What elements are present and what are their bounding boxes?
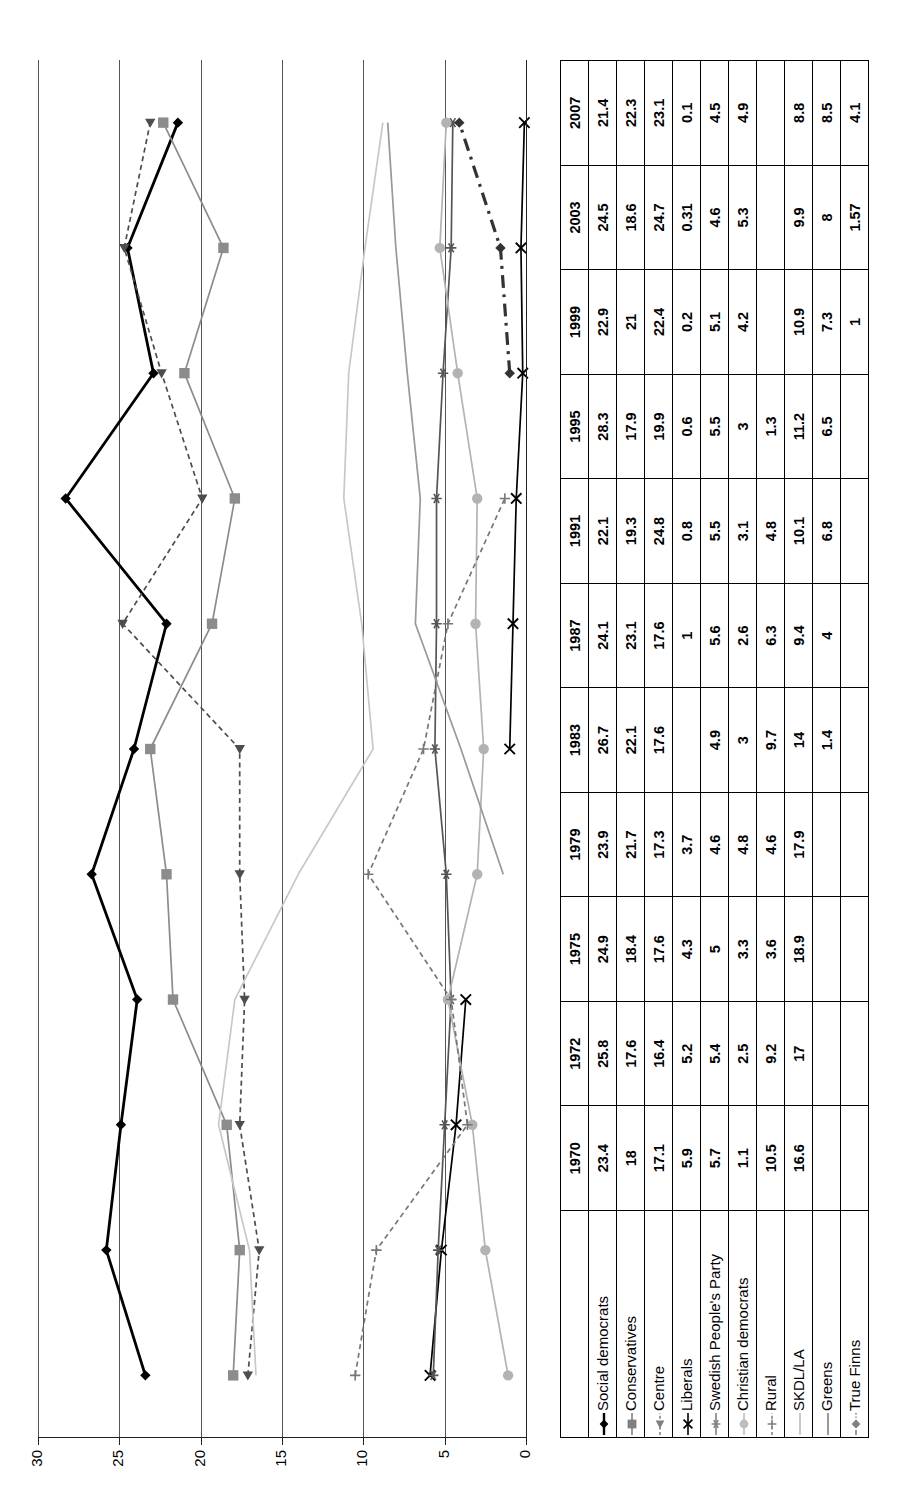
legend-item-label: Centre	[650, 1366, 667, 1411]
table-col-header-1987: 1987	[561, 583, 589, 688]
table-cell: 0.31	[673, 165, 701, 270]
table-cell: 6.5	[813, 374, 841, 479]
table-cell	[841, 1001, 869, 1106]
table-cell: 4.9	[701, 688, 729, 793]
table-cell: 2.5	[729, 1001, 757, 1106]
legend-item-label: SKDL/LA	[790, 1349, 807, 1411]
legend-item-social-democrats[interactable]: Social democrats	[589, 1211, 617, 1438]
axis-tick-label-30: 30	[28, 1450, 45, 1484]
table-cell: 16.6	[785, 1106, 813, 1211]
table-cell: 1.3	[757, 374, 785, 479]
table-cell: 1.57	[841, 165, 869, 270]
legend-item-true-finns[interactable]: True Finns	[841, 1211, 869, 1438]
table-row: Rural10.59.23.64.69.76.34.81.3	[757, 61, 785, 1438]
legend-marker-diamond-icon	[849, 1413, 861, 1435]
table-cell: 4.8	[729, 792, 757, 897]
table-cell: 24.9	[589, 897, 617, 1002]
table-cell: 23.4	[589, 1106, 617, 1211]
table-cell: 9.9	[785, 165, 813, 270]
table-cell	[841, 897, 869, 1002]
table-col-header-1983: 1983	[561, 688, 589, 793]
table-cell: 23.1	[617, 583, 645, 688]
table-cell: 19.9	[645, 374, 673, 479]
table-cell: 1	[673, 583, 701, 688]
table-cell: 21.7	[617, 792, 645, 897]
series-christian-democrats	[435, 117, 514, 1380]
table-cell	[813, 792, 841, 897]
table-cell: 28.3	[589, 374, 617, 479]
table-col-header-1979: 1979	[561, 792, 589, 897]
legend-item-label: Social democrats	[594, 1296, 611, 1411]
legend-item-label: Liberals	[678, 1358, 695, 1411]
plot-area: 051015202530	[38, 60, 526, 1438]
value-axis-line	[526, 60, 527, 1438]
table-cell: 17.6	[645, 688, 673, 793]
table-cell: 5.5	[701, 479, 729, 584]
series-true-finns	[454, 117, 515, 378]
tick-mark-0	[526, 1438, 527, 1445]
table-cell: 9.7	[757, 688, 785, 793]
table-cell: 23.9	[589, 792, 617, 897]
table-cell: 22.9	[589, 270, 617, 375]
table-cell: 22.1	[589, 479, 617, 584]
series-conservatives	[145, 117, 245, 1380]
table-cell: 1.4	[813, 688, 841, 793]
data-table: 1970197219751979198319871991199519992003…	[560, 60, 869, 1438]
table-cell: 0.8	[673, 479, 701, 584]
table-cell: 24.7	[645, 165, 673, 270]
table-body: Social democrats23.425.824.923.926.724.1…	[589, 61, 869, 1438]
table-cell: 9.4	[785, 583, 813, 688]
legend-marker-diamond-icon	[597, 1413, 609, 1435]
table-cell: 6.3	[757, 583, 785, 688]
table-cell: 3.7	[673, 792, 701, 897]
table-col-header-2003: 2003	[561, 165, 589, 270]
table-cell: 5.3	[729, 165, 757, 270]
table-col-header-1999: 1999	[561, 270, 589, 375]
table-header-row: 1970197219751979198319871991199519992003…	[561, 61, 589, 1438]
table-cell: 14	[785, 688, 813, 793]
table-col-header-1970: 1970	[561, 1106, 589, 1211]
data-table-zone: 1970197219751979198319871991199519992003…	[560, 60, 900, 1438]
legend-item-label: Greens	[818, 1362, 835, 1411]
table-row: SKDL/LA16.61718.917.9149.410.111.210.99.…	[785, 61, 813, 1438]
table-cell: 4.5	[701, 61, 729, 166]
table-cell	[841, 688, 869, 793]
table-cell: 4	[813, 583, 841, 688]
table-cell: 5.9	[673, 1106, 701, 1211]
table-row: True Finns11.574.1	[841, 61, 869, 1438]
table-cell	[673, 688, 701, 793]
legend-item-skdl-la[interactable]: SKDL/LA	[785, 1211, 813, 1438]
series-social-democrats	[60, 117, 183, 1380]
legend-item-centre[interactable]: Centre	[645, 1211, 673, 1438]
series-swedish-people-s-party	[428, 118, 458, 1380]
table-corner-cell	[561, 1211, 589, 1438]
table-cell: 3.1	[729, 479, 757, 584]
table-cell: 16.4	[645, 1001, 673, 1106]
series-lines	[38, 60, 526, 1438]
legend-item-rural[interactable]: Rural	[757, 1211, 785, 1438]
legend-item-label: True Finns	[846, 1340, 863, 1411]
table-cell: 24.5	[589, 165, 617, 270]
table-cell: 21	[617, 270, 645, 375]
legend-item-swedish-people-s-party[interactable]: Swedish People's Party	[701, 1211, 729, 1438]
axis-tick-label-0: 0	[516, 1450, 533, 1484]
table-cell: 11.2	[785, 374, 813, 479]
legend-item-greens[interactable]: Greens	[813, 1211, 841, 1438]
series-greens	[388, 123, 503, 875]
table-cell: 18	[617, 1106, 645, 1211]
legend-item-christian-democrats[interactable]: Christian democrats	[729, 1211, 757, 1438]
table-cell: 3	[729, 688, 757, 793]
table-cell: 5.4	[701, 1001, 729, 1106]
table-cell: 9.2	[757, 1001, 785, 1106]
axis-tick-label-5: 5	[435, 1450, 452, 1484]
table-cell: 4.6	[701, 165, 729, 270]
legend-item-liberals[interactable]: Liberals	[673, 1211, 701, 1438]
table-row: Liberals5.95.24.33.710.80.60.20.310.1	[673, 61, 701, 1438]
table-row: Greens1.446.86.57.388.5	[813, 61, 841, 1438]
table-cell: 22.3	[617, 61, 645, 166]
legend-item-conservatives[interactable]: Conservatives	[617, 1211, 645, 1438]
table-cell: 17.6	[645, 583, 673, 688]
table-cell: 17.6	[617, 1001, 645, 1106]
table-cell: 24.1	[589, 583, 617, 688]
tick-mark-30	[38, 1438, 39, 1445]
